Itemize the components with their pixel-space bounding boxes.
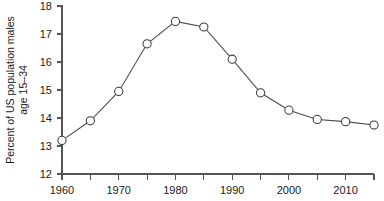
x-tick-label: 1960 [50,184,74,196]
x-tick-label: 2010 [333,184,357,196]
data-point [115,87,123,95]
data-point [200,23,208,31]
chart-page: 12 13 14 15 16 17 18 1960 1970 1980 [0,0,384,201]
data-point [342,118,350,126]
data-point [143,40,151,48]
x-tick-label: 1970 [106,184,130,196]
y-tick-label: 16 [40,56,52,68]
data-point [256,89,264,97]
y-tick-label: 15 [40,84,52,96]
y-tick-label: 14 [40,112,52,124]
data-point [285,106,293,114]
y-tick-label: 18 [40,0,52,12]
y-tick-label: 17 [40,28,52,40]
y-tick-label: 12 [40,168,52,180]
line-chart: 12 13 14 15 16 17 18 1960 1970 1980 [0,0,384,201]
data-point [58,136,66,144]
x-tick-label: 1990 [220,184,244,196]
y-axis-title-line2: age 15–34 [17,65,29,115]
data-point [86,117,94,125]
plot-background [0,0,384,201]
data-point [313,115,321,123]
x-tick-label: 2000 [277,184,301,196]
data-point [171,17,179,25]
x-tick-label: 1980 [163,184,187,196]
y-tick-label: 13 [40,140,52,152]
data-point [370,121,378,129]
y-axis-title-line1: Percent of US population males [4,16,16,164]
data-point [228,55,236,63]
